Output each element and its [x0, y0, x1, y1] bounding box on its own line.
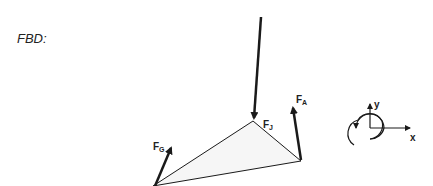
force-arrow-fa: [293, 108, 301, 160]
moment-arc-icon: [348, 114, 383, 145]
coordinate-system: y x: [348, 99, 416, 145]
force-arrow-fj: [254, 17, 261, 118]
force-label-fj: FJ: [263, 119, 273, 131]
free-body-diagram: FJ FA FG y x: [0, 0, 433, 186]
force-label-fg: FG: [153, 141, 165, 153]
y-axis-label: y: [374, 99, 380, 110]
rigid-body-triangle: [153, 121, 301, 186]
x-axis-label: x: [410, 132, 416, 143]
force-label-fa: FA: [296, 94, 307, 106]
